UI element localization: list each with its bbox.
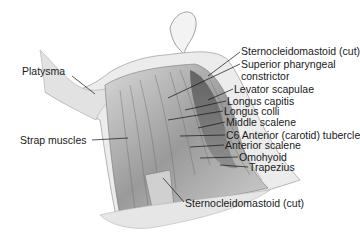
label-sternocleidomastoid-cut-top: Sternocleidomastoid (cut) bbox=[241, 46, 360, 57]
label-sternocleidomastoid-cut-bottom: Sternocleidomastoid (cut) bbox=[185, 198, 304, 209]
label-strap-muscles: Strap muscles bbox=[20, 135, 87, 146]
label-trapezius: Trapezius bbox=[249, 162, 295, 173]
label-constrictor: constrictor bbox=[241, 71, 289, 82]
label-middle-scalene: Middle scalene bbox=[226, 117, 296, 128]
label-superior-pharyngeal: Superior pharyngeal bbox=[241, 59, 336, 70]
label-anterior-scalene: Anterior scalene bbox=[225, 140, 301, 151]
label-levator-scapulae: Levator scapulae bbox=[234, 84, 314, 95]
label-platysma: Platysma bbox=[22, 66, 65, 77]
